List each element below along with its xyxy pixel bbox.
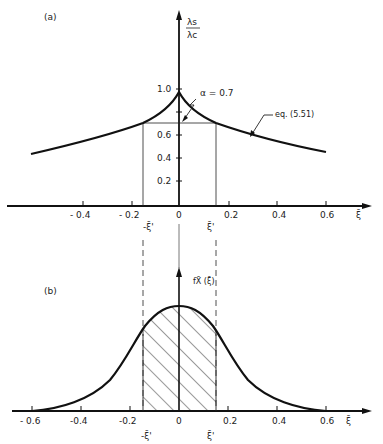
panel-a-y-arrow-icon — [176, 10, 182, 20]
panel-a-ytick-02: 0.2 — [157, 176, 171, 186]
panel-a-xtick-0: 0 — [176, 210, 182, 220]
panel-b-xtick-neg06: - 0.6 — [20, 416, 41, 426]
panel-b-xtick-06: 0.6 — [320, 416, 335, 426]
panel-a-xtick-neg04: - 0.4 — [70, 210, 91, 220]
figure-canvas: (a) λs λc - 0.4 - 0.2 0 0.2 0.4 0.6 ξ̄ — [0, 0, 383, 444]
panel-a-eq-leader — [252, 115, 273, 134]
panel-b-label: (b) — [44, 286, 57, 296]
panel-a-pos-xi-prime-label: ξ̄' — [207, 221, 215, 232]
panel-a-ytick-04: 0.4 — [157, 153, 172, 163]
panel-a-x-label: ξ̄ — [356, 209, 361, 220]
panel-b-x-label: ξ̄ — [346, 415, 351, 426]
panel-a-xtick-06: 0.6 — [320, 210, 335, 220]
panel-b-xtick-neg02: -0.2 — [119, 416, 137, 426]
panel-a-label: (a) — [44, 12, 57, 22]
panel-a-y-label-den: λc — [187, 30, 197, 40]
panel-b-neg-xi-prime-label: -ξ̄' — [141, 430, 152, 441]
panel-b-xtick-0: 0 — [176, 416, 182, 426]
panel-b-y-label: fX̄ (ξ̄) — [193, 276, 215, 286]
panel-a-xtick-04: 0.4 — [272, 210, 287, 220]
panel-a-eq-annotation: eq. (5.51) — [275, 110, 314, 119]
panel-a-ytick-06: 0.6 — [157, 130, 172, 140]
panel-b-xtick-04: 0.4 — [272, 416, 287, 426]
panel-a-ytick-10: 1.0 — [157, 84, 172, 94]
panel-a-alpha-annotation: α = 0.7 — [200, 88, 234, 98]
panel-b-pos-xi-prime-label: ξ̄' — [207, 430, 215, 441]
panel-a-xtick-02: 0.2 — [224, 210, 238, 220]
panel-a-x-arrow-icon — [362, 203, 372, 209]
panel-b: (b) fX̄ (ξ̄) - 0.6 -0.4 -0.2 0 0.2 0.4 0… — [12, 267, 372, 441]
panel-a-neg-xi-prime-label: -ξ̄' — [143, 221, 154, 232]
panel-a: (a) λs λc - 0.4 - 0.2 0 0.2 0.4 0.6 ξ̄ — [7, 10, 372, 232]
panel-a-y-label-num: λs — [187, 17, 197, 27]
panel-b-y-arrow-icon — [176, 267, 182, 277]
panel-a-xtick-neg02: - 0.2 — [119, 210, 139, 220]
panel-a-alpha-arrow-icon — [182, 115, 188, 122]
panel-b-xtick-02: 0.2 — [223, 416, 237, 426]
panel-b-x-arrow-icon — [362, 408, 372, 414]
panel-b-xtick-neg04: -0.4 — [70, 416, 88, 426]
